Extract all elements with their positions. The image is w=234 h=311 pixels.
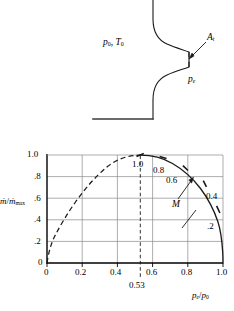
mach-label-0.8: 0.8	[153, 166, 164, 175]
xtick-label-0.2: 0.2	[75, 268, 86, 277]
converging-nozzle-schematic	[93, 0, 206, 119]
throat-area-label: At	[207, 33, 214, 43]
ytick-label-0: 0	[38, 258, 43, 267]
throat-pointer-arrowhead	[189, 53, 194, 59]
ytick-label-0.8: .8	[34, 172, 41, 181]
ytick-label-0.4: .4	[34, 215, 41, 224]
nozzle-upper-wall	[153, 0, 189, 57]
y-axis-denominator-subscript: max	[16, 200, 26, 206]
mach-marker-0.2	[217, 206, 220, 213]
reservoir-T-subscript: 0	[121, 41, 124, 47]
mach-marker-0.4	[203, 181, 206, 187]
plot-axes	[46, 154, 223, 264]
ytick-label-0.6: .6	[34, 194, 41, 203]
xtick-label-1.0: 1.0	[216, 268, 227, 277]
mach-annotation-label: M	[172, 200, 180, 210]
reservoir-condition-label: p0, T0	[103, 38, 124, 48]
mach-label-1.0: 1.0	[132, 160, 143, 169]
exit-pressure-subscript: e	[193, 78, 196, 84]
mach-marker-0.6	[183, 166, 188, 171]
xtick-label-0.4: 0.4	[110, 268, 121, 277]
ytick-label-0.2: .2	[34, 237, 41, 246]
plot-grid	[47, 155, 223, 263]
mach-label-0.2: .2	[207, 222, 214, 231]
curve-unattainable-dashed	[47, 155, 140, 263]
nozzle-lower-wall	[153, 62, 189, 119]
mach-label-0.4: 0.4	[206, 192, 217, 201]
y-axis-title: ṁ/ṁmax	[0, 197, 25, 207]
critical-ratio-label: 0.53	[129, 281, 145, 290]
xtick-label-0.6: 0.6	[146, 268, 157, 277]
x-axis-title: pe/p0	[192, 291, 209, 301]
xtick-label-0: 0	[44, 268, 49, 277]
figure-root: p0, T0 At pe 1.0 .8 .6 .4 .2 0 ṁ/ṁmax …	[0, 0, 234, 311]
xtick-label-0.8: 0.8	[181, 268, 192, 277]
mach-label-0.6: 0.6	[166, 176, 177, 185]
x-axis-denominator-subscript: 0	[206, 294, 209, 300]
mach-annotation-arrow	[178, 177, 196, 228]
exit-pressure-label: pe	[188, 75, 195, 85]
throat-area-subscript: t	[213, 36, 215, 42]
ytick-label-1.0: 1.0	[27, 150, 38, 159]
